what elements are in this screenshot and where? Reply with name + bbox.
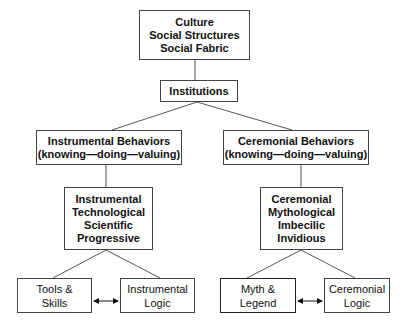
myth-legend-box: Myth & Legend — [220, 278, 296, 313]
line-traits-myth — [247, 250, 301, 278]
instrumental-trait-3: Scientific — [84, 219, 133, 232]
line-institutions-instrumental — [112, 102, 197, 130]
ceremonial-behaviors-title: Ceremonial Behaviors — [238, 135, 354, 148]
line-traits-ceremonial-logic — [301, 250, 355, 278]
instrumental-behaviors-box: Instrumental Behaviors (knowing—doing—va… — [36, 130, 182, 165]
ceremonial-logic-line-1: Ceremonial — [329, 282, 385, 296]
institutions-box: Institutions — [160, 80, 238, 102]
root-line-2: Social Structures — [149, 29, 239, 42]
instrumental-logic-line-2: Logic — [144, 296, 170, 310]
root-line-1: Culture — [175, 16, 214, 29]
ceremonial-trait-1: Ceremonial — [272, 193, 332, 206]
ceremonial-trait-2: Mythological — [268, 206, 335, 219]
root-culture-box: Culture Social Structures Social Fabric — [139, 10, 250, 60]
instrumental-behaviors-title: Instrumental Behaviors — [48, 135, 170, 148]
diagram-canvas: Culture Social Structures Social Fabric … — [0, 0, 403, 328]
instrumental-trait-4: Progressive — [77, 232, 140, 245]
ceremonial-logic-line-2: Logic — [344, 296, 370, 310]
tools-skills-line-1: Tools & — [36, 282, 72, 296]
ceremonial-traits-box: Ceremonial Mythological Imbecilic Invidi… — [260, 187, 343, 250]
instrumental-logic-line-1: Instrumental — [127, 282, 188, 296]
tools-skills-line-2: Skills — [42, 296, 68, 310]
instrumental-trait-1: Instrumental — [75, 193, 141, 206]
ceremonial-logic-box: Ceremonial Logic — [324, 278, 390, 313]
instrumental-logic-box: Instrumental Logic — [120, 278, 195, 313]
ceremonial-behaviors-subtitle: (knowing—doing—valuing) — [225, 148, 367, 161]
ceremonial-trait-3: Imbecilic — [278, 219, 325, 232]
institutions-label: Institutions — [169, 85, 228, 98]
root-line-3: Social Fabric — [160, 42, 228, 55]
line-institutions-ceremonial — [197, 102, 292, 130]
line-traits-tools — [53, 250, 106, 278]
ceremonial-trait-4: Invidious — [277, 232, 325, 245]
ceremonial-behaviors-box: Ceremonial Behaviors (knowing—doing—valu… — [223, 130, 369, 165]
instrumental-traits-box: Instrumental Technological Scientific Pr… — [64, 187, 153, 250]
myth-legend-line-1: Myth & — [241, 282, 275, 296]
line-traits-instrumental-logic — [106, 250, 160, 278]
instrumental-behaviors-subtitle: (knowing—doing—valuing) — [38, 148, 180, 161]
tools-skills-box: Tools & Skills — [17, 278, 92, 313]
myth-legend-line-2: Legend — [240, 296, 277, 310]
instrumental-trait-2: Technological — [72, 206, 145, 219]
